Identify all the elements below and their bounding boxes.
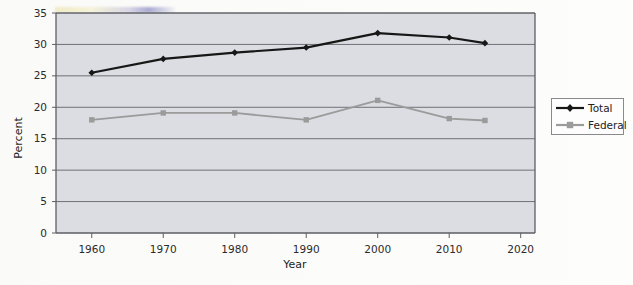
legend-label-total: Total xyxy=(588,102,613,114)
svg-text:1980: 1980 xyxy=(221,243,248,255)
chart-legend: Total Federal xyxy=(551,98,624,135)
svg-text:35: 35 xyxy=(34,7,47,19)
y-axis-tick-labels: 05101520253035 xyxy=(34,7,56,239)
svg-text:20: 20 xyxy=(34,101,47,113)
x-axis-title: Year xyxy=(282,258,307,271)
legend-marker-square-icon xyxy=(555,119,585,131)
data-series-layer xyxy=(88,30,488,123)
legend-entry-total: Total xyxy=(552,99,623,116)
svg-text:30: 30 xyxy=(34,38,47,50)
legend-label-federal: Federal xyxy=(588,119,627,131)
x-axis-tick-labels: 1960197019801990200020102020 xyxy=(78,233,534,255)
svg-text:0: 0 xyxy=(40,227,47,239)
svg-text:1960: 1960 xyxy=(78,243,105,255)
y-axis-title: Percent xyxy=(12,117,25,159)
plot-svg: 05101520253035 1960197019801990200020102… xyxy=(0,0,633,285)
gridlines xyxy=(56,13,535,202)
svg-text:15: 15 xyxy=(34,132,47,144)
svg-text:2010: 2010 xyxy=(436,243,463,255)
svg-text:2000: 2000 xyxy=(364,243,391,255)
svg-text:1970: 1970 xyxy=(150,243,177,255)
legend-marker-diamond-icon xyxy=(555,102,585,114)
axis-lines xyxy=(56,13,535,233)
svg-text:10: 10 xyxy=(34,164,47,176)
svg-text:1990: 1990 xyxy=(293,243,320,255)
svg-text:2020: 2020 xyxy=(507,243,534,255)
legend-entry-federal: Federal xyxy=(552,116,623,133)
svg-text:25: 25 xyxy=(34,69,47,81)
svg-text:5: 5 xyxy=(40,195,47,207)
line-chart: 05101520253035 1960197019801990200020102… xyxy=(0,0,633,285)
